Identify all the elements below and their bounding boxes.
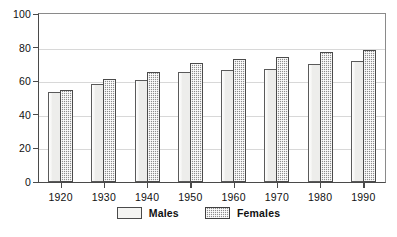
x-axis-tick-mark: [190, 183, 191, 188]
y-axis-tick-label: 100: [0, 8, 38, 20]
x-axis-tick-mark: [61, 183, 62, 188]
y-axis-tick-label: 0: [0, 176, 38, 188]
y-axis-tick-label: 80: [0, 42, 38, 54]
x-axis-tick-mark: [234, 183, 235, 188]
bar-group: [135, 14, 160, 182]
legend-label-males: Males: [149, 207, 179, 219]
bar-group: [91, 14, 116, 182]
bar-females[interactable]: [320, 52, 333, 182]
bar-group: [264, 14, 289, 182]
bars-layer: [39, 14, 385, 182]
bar-females[interactable]: [147, 72, 160, 182]
y-axis-tick-label: 40: [0, 109, 38, 121]
x-axis: 19201930194019501960197019801990: [39, 183, 385, 203]
x-axis-tick-label: 1960: [211, 191, 257, 203]
legend-item-females[interactable]: Females: [205, 207, 280, 219]
x-axis-tick-label: 1920: [38, 191, 84, 203]
x-axis-tick-mark: [104, 183, 105, 188]
x-axis-tick-mark: [363, 183, 364, 188]
legend-swatch-light-icon: [117, 207, 142, 219]
bar-females[interactable]: [103, 79, 116, 182]
x-axis-tick-label: 1930: [81, 191, 127, 203]
bar-group: [308, 14, 333, 182]
bar-females[interactable]: [60, 90, 73, 182]
bar-group: [178, 14, 203, 182]
chart-legend: Males Females: [0, 207, 397, 219]
x-axis-tick-label: 1940: [124, 191, 170, 203]
legend-item-males[interactable]: Males: [117, 207, 179, 219]
x-axis-tick-mark: [320, 183, 321, 188]
y-axis: 020406080100: [0, 0, 38, 183]
bar-group: [48, 14, 73, 182]
bar-females[interactable]: [190, 63, 203, 182]
x-axis-tick-mark: [277, 183, 278, 188]
y-axis-tick-label: 20: [0, 142, 38, 154]
legend-label-females: Females: [237, 207, 280, 219]
bar-females[interactable]: [363, 50, 376, 182]
x-axis-tick-label: 1970: [254, 191, 300, 203]
x-axis-tick-label: 1990: [340, 191, 386, 203]
bar-females[interactable]: [276, 57, 289, 182]
x-axis-tick-label: 1980: [297, 191, 343, 203]
x-axis-tick-label: 1950: [167, 191, 213, 203]
bar-females[interactable]: [233, 59, 246, 182]
bar-group: [351, 14, 376, 182]
bar-group: [221, 14, 246, 182]
bar-chart: 020406080100 192019301940195019601970198…: [0, 0, 397, 237]
y-axis-tick-label: 60: [0, 75, 38, 87]
x-axis-tick-mark: [147, 183, 148, 188]
legend-swatch-hatched-icon: [205, 207, 230, 219]
